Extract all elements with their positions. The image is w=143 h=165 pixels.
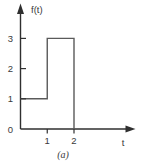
- x-tick-label: 2: [71, 135, 76, 146]
- y-tick-label: 1: [8, 93, 13, 104]
- x-tick-label: 1: [45, 135, 50, 146]
- step-function-line: [21, 38, 75, 129]
- y-axis-arrow-icon: [17, 4, 24, 15]
- y-tick-label: 3: [8, 33, 13, 44]
- y-axis-label: f(t): [31, 4, 43, 15]
- y-tick-label: 2: [8, 63, 13, 74]
- x-axis-label: t: [122, 137, 125, 148]
- y-tick-label: 0: [8, 124, 13, 135]
- step-function-figure: 0123 12 f(t) t (a): [0, 0, 143, 165]
- axes: [17, 4, 136, 133]
- x-ticks: 12: [45, 129, 77, 146]
- y-ticks: 0123: [8, 33, 26, 135]
- figure-caption: (a): [57, 149, 69, 161]
- x-axis-arrow-icon: [126, 126, 136, 133]
- step-function-plot: 0123 12 f(t) t (a): [0, 0, 143, 165]
